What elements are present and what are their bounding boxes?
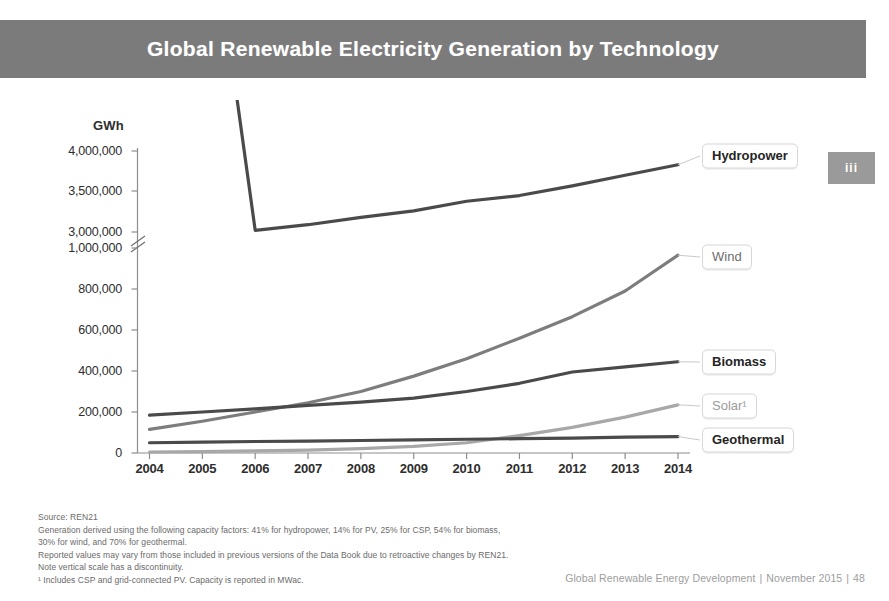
- series-line-biomass: [150, 362, 679, 415]
- x-axis-tick-label: 2006: [229, 461, 281, 476]
- x-axis-tick-label: 2004: [124, 461, 176, 476]
- footer-separator-1: |: [755, 572, 766, 584]
- footer-document: Global Renewable Energy Development: [565, 572, 755, 584]
- y-axis-tick-label: 0: [40, 446, 122, 460]
- page-footer: Global Renewable Energy Development|Nove…: [520, 572, 865, 584]
- legend-leader-line: [678, 156, 700, 165]
- x-axis-tick-label: 2009: [388, 461, 440, 476]
- legend-item-solar[interactable]: Solar¹: [702, 394, 757, 419]
- footnote-line: Note vertical scale has a discontinuity.: [38, 562, 558, 574]
- legend-item-biomass[interactable]: Biomass: [702, 350, 776, 375]
- series-line-wind: [150, 255, 679, 429]
- x-axis-tick-label: 2007: [282, 461, 334, 476]
- footnote-line: Source: REN21: [38, 512, 558, 524]
- footnote-line: Generation derived using the following c…: [38, 525, 558, 537]
- x-axis-tick-label: 2013: [599, 461, 651, 476]
- y-axis-tick-label: 800,000: [40, 282, 122, 296]
- x-axis-tick-label: 2011: [493, 461, 545, 476]
- x-axis-tick-label: 2008: [335, 461, 387, 476]
- y-axis-tick-label: 600,000: [40, 323, 122, 337]
- x-axis-tick-label: 2014: [652, 461, 704, 476]
- y-axis-tick-label: 1,000,000: [40, 241, 122, 255]
- series-line-hydropower: [150, 100, 679, 230]
- y-axis-tick-label: 400,000: [40, 364, 122, 378]
- legend-item-hydropower[interactable]: Hydropower: [702, 144, 798, 169]
- x-axis-tick-label: 2005: [176, 461, 228, 476]
- footer-date: November 2015: [766, 572, 842, 584]
- footer-separator-2: |: [842, 572, 853, 584]
- series-line-geothermal: [150, 437, 679, 443]
- y-axis-unit-label: GWh: [93, 118, 124, 133]
- y-axis-tick-label: 3,500,000: [40, 184, 122, 198]
- x-axis-tick-label: 2010: [441, 461, 493, 476]
- title-banner: Global Renewable Electricity Generation …: [0, 20, 866, 78]
- y-axis-tick-label: 3,000,000: [40, 225, 122, 239]
- x-axis-tick-label: 2012: [546, 461, 598, 476]
- y-axis-tick-label: 4,000,000: [40, 144, 122, 158]
- legend-item-geothermal[interactable]: Geothermal: [702, 428, 794, 453]
- y-axis-tick-label: 200,000: [40, 405, 122, 419]
- line-chart: 4,000,0003,500,0003,000,0001,000,000800,…: [0, 100, 889, 490]
- legend-item-wind[interactable]: Wind: [702, 245, 752, 270]
- y-axis-ticks: [132, 151, 138, 453]
- footnotes-block: Source: REN21Generation derived using th…: [38, 512, 558, 588]
- page-title: Global Renewable Electricity Generation …: [147, 37, 719, 61]
- footer-page-number: 48: [853, 572, 865, 584]
- legend-leader-line: [678, 255, 700, 257]
- legend-leader-line: [678, 437, 700, 440]
- chart-series-group: [150, 100, 701, 452]
- footnote-line: ¹ Includes CSP and grid-connected PV. Ca…: [38, 575, 558, 587]
- x-axis-ticks: [150, 453, 679, 459]
- footnote-line: Reported values may vary from those incl…: [38, 550, 558, 562]
- footnote-line: 30% for wind, and 70% for geothermal.: [38, 537, 558, 549]
- legend-leader-line: [678, 405, 700, 406]
